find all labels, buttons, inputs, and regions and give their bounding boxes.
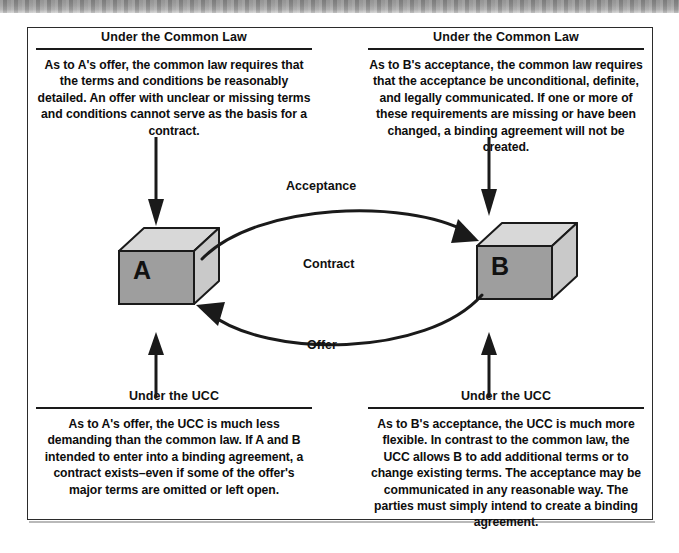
- acceptance-label: Acceptance: [286, 179, 356, 193]
- heading-rule: [368, 407, 644, 409]
- panel-ucc-acceptance: Under the UCC As to B's acceptance, the …: [368, 389, 644, 531]
- panel-body: As to B's acceptance, the UCC is much mo…: [368, 416, 644, 531]
- cube-b-label: B: [491, 252, 509, 281]
- panel-body: As to A's offer, the UCC is much less de…: [36, 416, 312, 498]
- panel-ucc-offer: Under the UCC As to A's offer, the UCC i…: [36, 389, 312, 498]
- panel-common-law-offer: Under the Common Law As to A's offer, th…: [36, 30, 312, 139]
- panel-common-law-acceptance: Under the Common Law As to B's acceptanc…: [368, 30, 644, 155]
- contract-label: Contract: [303, 257, 354, 271]
- cube-a-label: A: [133, 256, 151, 285]
- offer-label: Offer: [307, 338, 337, 352]
- panel-heading: Under the Common Law: [36, 30, 312, 45]
- heading-rule: [36, 407, 312, 409]
- scan-artifact-band: [0, 0, 679, 13]
- heading-rule: [368, 48, 644, 50]
- panel-heading: Under the Common Law: [368, 30, 644, 45]
- heading-rule: [36, 48, 312, 50]
- panel-heading: Under the UCC: [368, 389, 644, 404]
- panel-heading: Under the UCC: [36, 389, 312, 404]
- panel-body: As to A's offer, the common law requires…: [36, 57, 312, 139]
- panel-body: As to B's acceptance, the common law req…: [368, 57, 644, 155]
